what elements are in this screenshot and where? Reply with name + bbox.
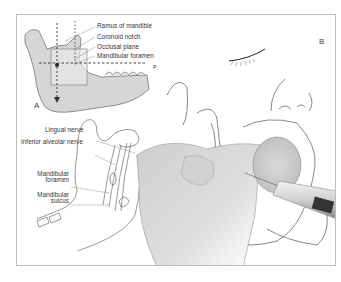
label-mandibular-foramen-inner: Mandibular foramen: [23, 171, 69, 184]
label-mandibular-foramen: Mandibular foramen: [97, 53, 154, 59]
label-lingual-nerve: Lingual nerve: [45, 127, 83, 133]
label-line-2: foramen: [46, 176, 69, 183]
label-occlusal-plane: Occlusal plane: [97, 44, 139, 50]
label-inferior-alveolar-nerve: Inferior alveolar nerve: [21, 139, 83, 145]
label-ramus-of-mandible: Ramus of mandible: [97, 23, 152, 29]
panel-a-letter: A: [34, 101, 39, 110]
label-line-2: sulcus: [51, 197, 69, 204]
label-coronoid-notch: Coronoid notch: [97, 34, 140, 40]
figure-frame: A Ramus of mandible Coronoid notch Occlu…: [16, 14, 336, 266]
label-mandibular-sulcus: Mandibular sulcus: [23, 192, 69, 205]
label-plane-marker: P: [153, 65, 156, 70]
panel-b-letter: B: [319, 37, 324, 46]
